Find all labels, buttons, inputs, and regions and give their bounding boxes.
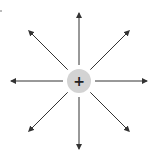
field-line-arrow-225 xyxy=(29,92,68,131)
field-line-arrow-315 xyxy=(90,92,129,131)
field-line-arrow-45 xyxy=(90,31,129,70)
plus-sign-icon: + xyxy=(73,73,85,89)
field-line-arrow-135 xyxy=(29,31,68,70)
field-diagram: + xyxy=(0,0,153,164)
